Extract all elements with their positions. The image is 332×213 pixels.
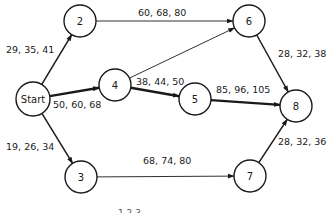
edge-5-to-8 — [211, 100, 280, 105]
edge-start-to-4 — [50, 88, 99, 96]
node-label: 7 — [247, 171, 253, 182]
node-2: 2 — [64, 5, 96, 37]
node-label: 6 — [246, 16, 252, 27]
node-5: 5 — [179, 83, 211, 115]
edge-3-to-7 — [97, 176, 234, 177]
edge-label-6-to-8: 28, 32, 38 — [278, 48, 326, 59]
node-label: 2 — [77, 16, 83, 27]
edge-label-2-to-6: 60, 68, 80 — [138, 7, 186, 18]
edge-label-start-to-4: 50, 60, 68 — [53, 99, 101, 110]
node-label: 8 — [293, 101, 299, 112]
node-label: 3 — [78, 172, 84, 183]
node-label: 4 — [112, 80, 118, 91]
edge-labels-layer: 29, 35, 4150, 60, 6819, 26, 3460, 68, 80… — [6, 7, 326, 166]
edge-label-3-to-7: 68, 74, 80 — [143, 155, 191, 166]
node-label: 5 — [192, 94, 198, 105]
edge-4-to-6 — [129, 28, 234, 78]
network-diagram: Start2345678 29, 35, 4150, 60, 6819, 26,… — [0, 0, 332, 213]
node-7: 7 — [234, 160, 266, 192]
node-8: 8 — [280, 90, 312, 122]
edge-start-to-2 — [42, 35, 72, 85]
node-3: 3 — [65, 161, 97, 193]
edge-start-to-3 — [42, 113, 73, 163]
edge-label-7-to-8: 28, 32, 36 — [278, 136, 326, 147]
caption-text: 1 2 3 — [118, 208, 141, 213]
edge-4-to-5 — [131, 88, 179, 96]
edge-label-start-to-2: 29, 35, 41 — [6, 44, 54, 55]
edge-label-start-to-3: 19, 26, 34 — [6, 141, 54, 152]
node-start: Start — [16, 82, 50, 116]
node-6: 6 — [233, 5, 265, 37]
node-4: 4 — [99, 69, 131, 101]
node-label: Start — [21, 94, 46, 105]
edge-label-4-to-5: 38, 44, 50 — [136, 76, 184, 87]
edge-label-5-to-8: 85, 96, 105 — [216, 84, 270, 95]
